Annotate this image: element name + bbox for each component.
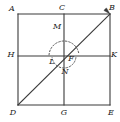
point-label-C: C <box>59 4 65 12</box>
point-label-N: N <box>62 68 69 76</box>
point-label-H: H <box>8 51 15 59</box>
point-label-A: A <box>9 5 15 13</box>
segments-layer <box>18 14 110 105</box>
point-label-B: B <box>109 4 115 12</box>
point-label-K: K <box>111 51 117 59</box>
figure-canvas <box>0 0 120 122</box>
point-label-M: M <box>53 23 61 31</box>
point-label-F: F <box>68 55 74 63</box>
geometry-figure: ACBHKDGEFMLN <box>0 0 120 122</box>
point-label-D: D <box>10 109 16 117</box>
point-label-G: G <box>61 109 67 117</box>
point-label-L: L <box>49 58 54 66</box>
point-label-E: E <box>108 109 114 117</box>
